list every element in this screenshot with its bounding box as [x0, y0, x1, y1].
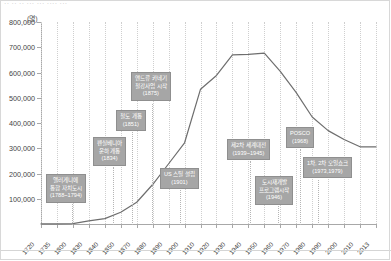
y-tick-label: 700,000	[9, 43, 35, 52]
x-tick-mark	[280, 224, 281, 228]
x-tick-label: 1735	[36, 241, 51, 256]
callout-line: 앤드류 카네기	[135, 75, 167, 83]
callout-leader-line	[250, 161, 251, 225]
grid-line	[376, 22, 377, 224]
callout-line: 펜실베니아	[97, 140, 122, 148]
x-tick-mark	[89, 224, 90, 228]
y-tick-label: 800,000	[9, 18, 35, 27]
grid-line	[296, 22, 297, 224]
x-tick-label: 2013	[356, 241, 371, 256]
x-tick-label: 1970	[276, 241, 291, 256]
y-tick-label: 200,000	[9, 170, 35, 179]
callout-line: (1968)	[290, 138, 310, 146]
callout-line: 철강사업 시작	[135, 83, 167, 91]
x-tick-mark	[328, 224, 329, 228]
cut-off-header-text: ·· ·· ·· ··· ··· ···· ···	[4, 0, 184, 7]
x-tick-mark	[41, 224, 42, 228]
y-tick-label: 400,000	[9, 119, 35, 128]
x-tick-mark	[169, 224, 170, 228]
grid-line	[201, 22, 202, 224]
callout-railroad-open[interactable]: 철도 개통(1851)	[116, 110, 146, 131]
grid-line	[216, 22, 217, 224]
x-tick-mark	[216, 224, 217, 228]
x-tick-label: 1950	[244, 241, 259, 256]
grid-line	[360, 22, 361, 224]
x-tick-mark	[296, 224, 297, 228]
callout-allegheny-merge[interactable]: 앨러게니에통합 자치도시(1788~1794)	[46, 174, 86, 203]
x-tick-label: 1880	[132, 241, 147, 256]
x-tick-mark	[376, 224, 377, 228]
x-tick-label: 1960	[260, 241, 275, 256]
x-tick-mark	[264, 224, 265, 228]
callout-oil-shock[interactable]: 1차, 2차 오일쇼크(1973,1979)	[303, 157, 352, 178]
x-tick-label: 1800	[52, 241, 67, 256]
callout-urban-renewal[interactable]: 도시재개발프로그램시작(1946)	[255, 176, 293, 205]
callout-line: 도시재개발	[259, 179, 289, 187]
x-tick-label: 2000	[324, 241, 339, 256]
callout-line: (1973,1979)	[307, 168, 348, 176]
x-tick-label: 1830	[68, 241, 83, 256]
y-tick-label: 300,000	[9, 144, 35, 153]
callout-line: 운하 개통	[97, 148, 122, 156]
x-tick-mark	[73, 224, 74, 228]
x-tick-mark	[201, 224, 202, 228]
grid-line	[185, 22, 186, 224]
grid-line	[89, 22, 90, 224]
callout-posco[interactable]: POSCO(1968)	[286, 127, 314, 148]
x-tick-label: 1850	[100, 241, 115, 256]
callout-line: (1834)	[97, 155, 122, 163]
x-axis-line	[41, 224, 376, 225]
callout-carnegie-steel[interactable]: 앤드류 카네기철강사업 시작(1875)	[131, 72, 171, 101]
grid-line	[169, 22, 170, 224]
x-tick-label: 1890	[148, 241, 163, 256]
x-tick-label: 1920	[196, 241, 211, 256]
callout-leader-line	[152, 104, 153, 225]
x-tick-label: 1990	[308, 241, 323, 256]
y-tick-label: 600,000	[9, 69, 35, 78]
x-tick-mark	[121, 224, 122, 228]
callout-line: (1901)	[164, 179, 195, 187]
callout-line: 철도 개통	[120, 113, 142, 121]
callout-leader-line	[113, 167, 114, 225]
footer-divider	[0, 250, 391, 251]
population-line-series	[0, 0, 391, 261]
x-tick-label: 1930	[212, 241, 227, 256]
callout-line: (1946)	[259, 194, 289, 202]
x-tick-label: 1980	[292, 241, 307, 256]
grid-line	[312, 22, 313, 224]
callout-leader-line	[318, 180, 319, 225]
callout-line: (1875)	[135, 90, 167, 98]
x-tick-mark	[57, 224, 58, 228]
x-tick-label: 1940	[228, 241, 243, 256]
callout-line: 제2차 세계대전	[231, 142, 266, 150]
x-tick-mark	[312, 224, 313, 228]
callout-world-war-2[interactable]: 제2차 세계대전(1939~1945)	[227, 139, 270, 160]
x-tick-label: 1900	[164, 241, 179, 256]
x-tick-label: 1720	[21, 241, 36, 256]
callout-leader-line	[180, 190, 181, 225]
grid-line	[105, 22, 106, 224]
callout-line: (1851)	[120, 121, 142, 129]
callout-us-steel[interactable]: US 스틸 설립(1901)	[160, 168, 199, 189]
callout-line: 앨러게니에	[50, 177, 82, 185]
x-tick-mark	[360, 224, 361, 228]
grid-line	[232, 22, 233, 224]
callout-line: (1939~1945)	[231, 150, 266, 158]
chart-root: ·· ·· ·· ··· ··· ···· ··· (명) 100,000200…	[0, 0, 391, 261]
callout-line: US 스틸 설립	[164, 171, 195, 179]
grid-line	[41, 22, 42, 224]
grid-line	[328, 22, 329, 224]
callout-line: 프로그램시작	[259, 187, 289, 195]
x-tick-mark	[185, 224, 186, 228]
x-tick-mark	[232, 224, 233, 228]
callout-leader-line	[300, 149, 301, 225]
x-tick-label: 1910	[180, 241, 195, 256]
image-frame	[0, 0, 390, 260]
callout-line: 통합 자치도시	[50, 185, 82, 193]
grid-line	[344, 22, 345, 224]
y-tick-label: 500,000	[9, 94, 35, 103]
x-tick-mark	[105, 224, 106, 228]
callout-pennsylvania-canal[interactable]: 펜실베니아운하 개통(1834)	[93, 137, 126, 166]
x-tick-label: 2010	[340, 241, 355, 256]
callout-line: (1788~1794)	[50, 192, 82, 200]
